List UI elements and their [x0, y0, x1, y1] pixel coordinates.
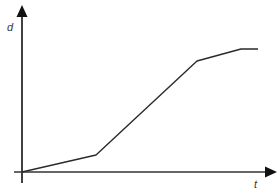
x-axis-arrow-icon	[265, 167, 277, 178]
y-axis-arrow-icon	[17, 5, 28, 17]
x-axis-label: t	[254, 178, 258, 190]
data-line	[22, 49, 258, 172]
y-axis-label: d	[7, 21, 14, 33]
distance-time-graph: d t	[0, 0, 280, 194]
